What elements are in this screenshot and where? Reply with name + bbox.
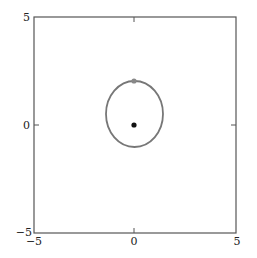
- x-tick-label-max: 5: [234, 235, 241, 248]
- chart-canvas: 5 0 −5 −5 0 5: [0, 0, 257, 258]
- orbit-ellipse: [106, 81, 163, 147]
- y-tick-label-max: 5: [23, 11, 30, 24]
- orbiting-point: [131, 78, 136, 83]
- x-tick-label-min: −5: [26, 235, 42, 248]
- y-tick-label-mid: 0: [23, 119, 30, 132]
- focus-point: [131, 122, 136, 127]
- x-tick-label-mid: 0: [131, 235, 138, 248]
